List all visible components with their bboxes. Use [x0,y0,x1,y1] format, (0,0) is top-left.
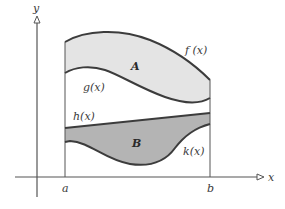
x-axis-label: x [268,171,275,184]
curve-k-label: k(x) [183,145,204,158]
bound-a-label: a [62,182,69,195]
region-a-label: A [130,60,140,73]
region-b-label: B [131,137,141,150]
curve-h-label: h(x) [73,110,95,123]
x-axis-arrow-icon [257,174,264,180]
bound-b-label: b [207,182,214,195]
y-axis-arrow-icon [34,16,40,23]
y-axis-label: y [32,2,40,15]
area-between-curves-diagram: y x a b f (x) g(x) h(x) k(x) A B [0,0,285,209]
curve-g-label: g(x) [83,81,105,94]
curve-f-label: f (x) [184,44,207,57]
